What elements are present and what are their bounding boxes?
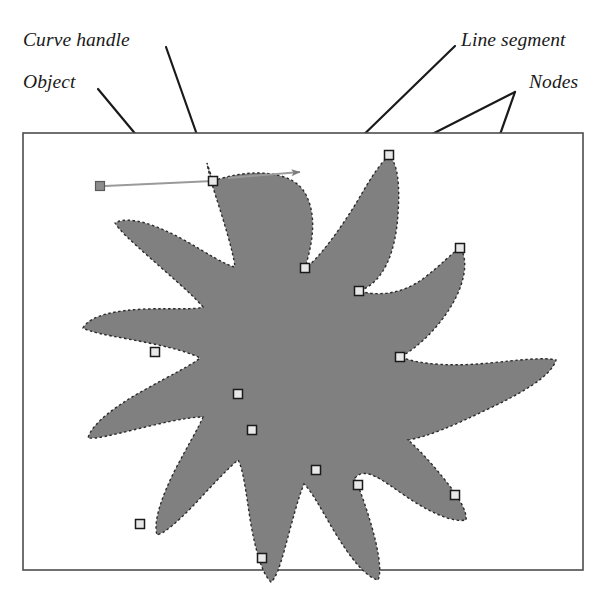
node-square[interactable]: [209, 177, 218, 186]
node-square[interactable]: [312, 466, 321, 475]
node-square[interactable]: [354, 481, 363, 490]
figure-canvas: [0, 0, 607, 597]
callout-label-object: Object: [23, 72, 76, 92]
node-square[interactable]: [234, 390, 243, 399]
curve-handle-square[interactable]: [96, 182, 105, 191]
callout-label-curve-handle: Curve handle: [23, 30, 130, 50]
node-square[interactable]: [396, 353, 405, 362]
node-square[interactable]: [451, 491, 460, 500]
node-square[interactable]: [301, 264, 310, 273]
node-square[interactable]: [355, 287, 364, 296]
callout-label-nodes: Nodes: [529, 72, 578, 92]
node-square[interactable]: [136, 520, 145, 529]
callout-label-line-segment: Line segment: [461, 30, 566, 50]
node-square[interactable]: [385, 151, 394, 160]
vector-anatomy-figure: Curve handle Object Line segment Nodes: [0, 0, 607, 597]
node-square[interactable]: [151, 348, 160, 357]
node-square[interactable]: [258, 554, 267, 563]
node-square[interactable]: [456, 244, 465, 253]
node-square[interactable]: [248, 426, 257, 435]
